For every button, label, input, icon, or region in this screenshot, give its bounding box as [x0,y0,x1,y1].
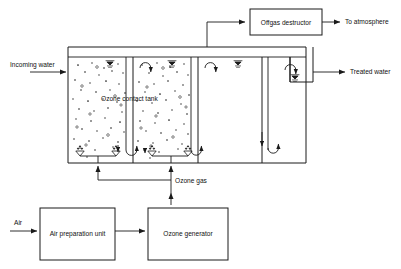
tank-hanging-baffles [126,57,268,150]
ozone-generator-label: Ozone generator [163,230,213,238]
to-atmosphere-label: To atmosphere [345,18,389,26]
ozone-contact-tank-shell [68,47,306,163]
process-flow-diagram: Incoming water Treated water Ozone conta… [0,0,401,269]
bubble-field-chamber-2 [136,62,190,158]
bubble-field-chamber-1-open [76,66,122,147]
treated-water-label: Treated water [350,68,391,75]
internal-flow-arrows [118,63,296,156]
ozone-contact-tank-label: Ozone contact tank [101,95,159,102]
bubble-field-chamber-1 [72,62,125,157]
ozone-gas-label: Ozone gas [175,177,208,185]
air-preparation-unit-label: Air preparation unit [50,230,106,238]
water-level-markers [106,61,300,82]
air-label: Air [14,219,23,226]
offgas-destructor-label: Offgas destructor [261,19,312,27]
bubble-field-chamber-2-open [140,67,187,148]
incoming-water-label: Incoming water [10,61,56,69]
diagram-canvas: Incoming water Treated water Ozone conta… [0,0,401,269]
offgas-pipe[interactable] [207,22,245,47]
